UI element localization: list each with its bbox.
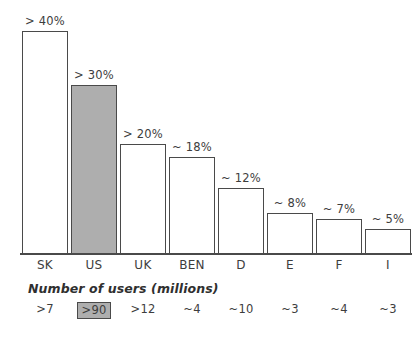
category-label-e: E	[267, 258, 313, 272]
category-label-uk: UK	[120, 258, 166, 272]
users-value-uk: >12	[120, 302, 166, 316]
bar-slot: > 30%	[71, 8, 117, 254]
users-value-text: >7	[36, 302, 53, 316]
bar-i[interactable]	[365, 229, 411, 254]
bar-value-label: ~ 5%	[372, 212, 404, 226]
bar-e[interactable]	[267, 213, 313, 254]
users-value-i: ~3	[365, 302, 411, 316]
users-value-ben: ~4	[169, 302, 215, 316]
bar-ben[interactable]	[169, 157, 215, 254]
bar-value-label: > 30%	[74, 68, 114, 82]
category-label-d: D	[218, 258, 264, 272]
users-value-e: ~3	[267, 302, 313, 316]
users-value-text: ~3	[281, 302, 298, 316]
bar-d[interactable]	[218, 188, 264, 254]
category-label-f: F	[316, 258, 362, 272]
bar-sk[interactable]	[22, 31, 68, 254]
bar-f[interactable]	[316, 219, 362, 254]
users-value-text: >12	[131, 302, 156, 316]
plot-area: > 40%> 30%> 20%~ 18%~ 12%~ 8%~ 7%~ 5%	[20, 8, 412, 254]
bar-value-label: ~ 8%	[274, 196, 306, 210]
users-value-text: ~10	[229, 302, 254, 316]
bar-slot: ~ 18%	[169, 8, 215, 254]
users-caption: Number of users (millions)	[28, 281, 219, 296]
category-label-row: SKUSUKBENDEFI	[20, 258, 412, 278]
bar-slot: ~ 8%	[267, 8, 313, 254]
users-value-us: >90	[71, 302, 117, 319]
users-value-sk: >7	[22, 302, 68, 316]
bar-slot: ~ 5%	[365, 8, 411, 254]
category-label-ben: BEN	[169, 258, 215, 272]
bar-chart-figure: > 40%> 30%> 20%~ 18%~ 12%~ 8%~ 7%~ 5% SK…	[0, 0, 420, 337]
bar-value-label: > 40%	[25, 14, 65, 28]
users-value-d: ~10	[218, 302, 264, 316]
users-value-f: ~4	[316, 302, 362, 316]
bar-slot: > 20%	[120, 8, 166, 254]
bar-slot: ~ 7%	[316, 8, 362, 254]
bar-value-label: ~ 18%	[172, 140, 212, 154]
bar-slot: ~ 12%	[218, 8, 264, 254]
users-value-text: ~4	[330, 302, 347, 316]
users-value-text: ~3	[379, 302, 396, 316]
category-label-sk: SK	[22, 258, 68, 272]
bar-slot: > 40%	[22, 8, 68, 254]
bar-value-label: > 20%	[123, 127, 163, 141]
category-label-i: I	[365, 258, 411, 272]
users-value-text: >90	[77, 302, 112, 319]
bar-value-label: ~ 12%	[221, 171, 261, 185]
x-axis-baseline	[20, 253, 412, 255]
bar-uk[interactable]	[120, 144, 166, 254]
users-value-text: ~4	[183, 302, 200, 316]
users-value-row: >7>90>12~4~10~3~4~3	[20, 302, 412, 324]
bar-us[interactable]	[71, 85, 117, 254]
bar-value-label: ~ 7%	[323, 202, 355, 216]
category-label-us: US	[71, 258, 117, 272]
